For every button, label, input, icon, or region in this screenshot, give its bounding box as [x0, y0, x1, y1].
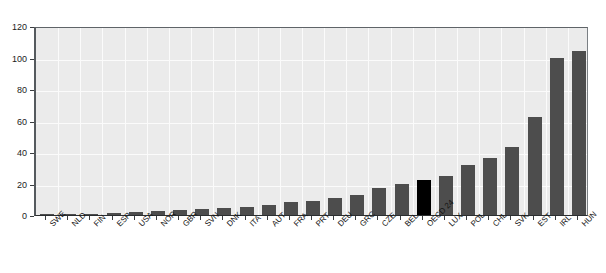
- x-tick-label: PRT: [314, 222, 320, 228]
- x-tick-mark: [400, 216, 401, 220]
- x-tick-label: GRC: [358, 222, 364, 228]
- bar: [461, 165, 475, 215]
- x-tick-mark: [289, 216, 290, 220]
- x-tick-label: ITA: [248, 222, 254, 228]
- x-tick-label: HUN: [580, 222, 586, 228]
- x-tick-label: NLD: [70, 222, 76, 228]
- bar: [284, 202, 298, 215]
- bar: [262, 205, 276, 215]
- bar: [572, 51, 586, 215]
- x-tick-mark: [267, 216, 268, 220]
- y-tick-label: 80: [17, 86, 27, 95]
- x-tick-label: FIN: [92, 222, 98, 228]
- y-tick-label: 0: [22, 212, 27, 221]
- x-tick-mark: [311, 216, 312, 220]
- x-tick-label: SVN: [203, 222, 209, 228]
- x-tick-mark: [156, 216, 157, 220]
- x-tick-label: NOR: [159, 222, 165, 228]
- x-tick-label: GBR: [181, 222, 187, 228]
- plot-area: [34, 27, 588, 216]
- y-tick-label: 100: [12, 55, 27, 64]
- bar: [107, 213, 121, 215]
- y-tick-label: 20: [17, 181, 27, 190]
- x-tick-mark: [89, 216, 90, 220]
- x-tick-label: ESP: [115, 222, 121, 228]
- x-tick-mark: [245, 216, 246, 220]
- x-tick-mark: [222, 216, 223, 220]
- x-tick-mark: [178, 216, 179, 220]
- x-tick-mark: [45, 216, 46, 220]
- x-tick-mark: [533, 216, 534, 220]
- x-axis: SWENLDFINESPUSANORGBRSVNDNKITAAUTFRAPRTD…: [34, 216, 588, 273]
- x-tick-mark: [444, 216, 445, 220]
- x-tick-label: USA: [137, 222, 143, 228]
- x-tick-mark: [555, 216, 556, 220]
- x-tick-mark: [333, 216, 334, 220]
- bar: [505, 147, 519, 215]
- x-tick-label: DEU: [336, 222, 342, 228]
- x-tick-mark: [112, 216, 113, 220]
- bar-chart: 020406080100120 SWENLDFINESPUSANORGBRSVN…: [0, 0, 606, 273]
- x-tick-label: AUT: [270, 222, 276, 228]
- bar: [217, 208, 231, 215]
- bar: [483, 158, 497, 215]
- x-tick-label: LUX: [447, 222, 453, 228]
- bar: [84, 214, 98, 215]
- bar: [350, 195, 364, 215]
- x-tick-mark: [67, 216, 68, 220]
- x-tick-label: DNK: [225, 222, 231, 228]
- bar: [395, 184, 409, 216]
- bar: [528, 117, 542, 215]
- y-axis: 020406080100120: [0, 27, 34, 216]
- chart-title: [0, 0, 606, 7]
- bar: [550, 58, 564, 216]
- bar: [306, 201, 320, 215]
- x-tick-mark: [510, 216, 511, 220]
- bar: [40, 214, 54, 215]
- x-tick-label: EST: [536, 222, 542, 228]
- y-tick-label: 60: [17, 118, 27, 127]
- x-tick-label: CHL: [491, 222, 497, 228]
- x-tick-label: SVK: [513, 222, 519, 228]
- x-tick-mark: [422, 216, 423, 220]
- bar-highlight: [417, 180, 431, 215]
- x-tick-mark: [488, 216, 489, 220]
- x-tick-mark: [134, 216, 135, 220]
- bar: [328, 198, 342, 215]
- x-tick-label: IRL: [558, 222, 564, 228]
- x-tick-mark: [577, 216, 578, 220]
- x-tick-mark: [377, 216, 378, 220]
- x-tick-mark: [200, 216, 201, 220]
- x-tick-mark: [355, 216, 356, 220]
- x-tick-mark: [466, 216, 467, 220]
- x-tick-label: POL: [469, 222, 475, 228]
- x-tick-label: OECD 24: [425, 222, 431, 228]
- bar-series: [36, 28, 587, 215]
- x-tick-label: FRA: [292, 222, 298, 228]
- x-tick-label: BEL: [403, 222, 409, 228]
- x-tick-label: SWE: [48, 222, 54, 228]
- y-tick-label: 40: [17, 149, 27, 158]
- bar: [372, 188, 386, 215]
- x-tick-label: CZE: [380, 222, 386, 228]
- y-tick-label: 120: [12, 23, 27, 32]
